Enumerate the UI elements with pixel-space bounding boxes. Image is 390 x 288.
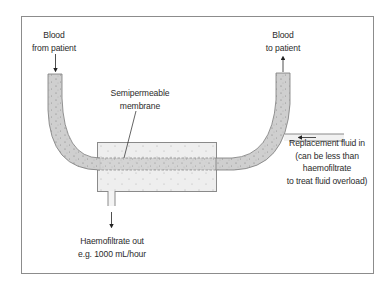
label-line: haemofiltrate: [280, 162, 374, 175]
blood-from-patient-label: Blood from patient: [24, 29, 84, 54]
label-line: from patient: [24, 42, 84, 55]
haemofiltrate-outlet-tube: [108, 191, 115, 206]
semipermeable-membrane-label: Semipermeable membrane: [100, 87, 180, 112]
haemofiltrate-out-label: Haemofiltrate out e.g. 1000 mL/hour: [72, 235, 152, 260]
label-line: (can be less than: [280, 150, 374, 163]
label-line: Semipermeable: [100, 87, 180, 100]
blood-channel: [98, 158, 217, 170]
label-line: to patient: [257, 42, 309, 55]
label-line: Haemofiltrate out: [72, 235, 152, 248]
replacement-fluid-label: Replacement fluid in (can be less than h…: [280, 137, 374, 187]
label-line: Blood: [24, 29, 84, 42]
blood-to-patient-label: Blood to patient: [257, 29, 309, 54]
label-line: Replacement fluid in: [280, 137, 374, 150]
label-line: membrane: [100, 100, 180, 113]
label-line: Blood: [257, 29, 309, 42]
label-line: to treat fluid overload): [280, 175, 374, 188]
blood-inlet-tube: [48, 74, 100, 170]
label-line: e.g. 1000 mL/hour: [72, 248, 152, 261]
blood-outlet-tube: [216, 73, 290, 170]
